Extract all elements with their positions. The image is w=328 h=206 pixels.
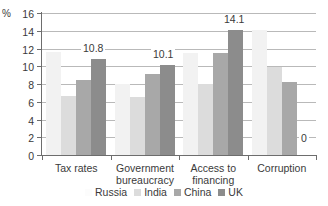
- x-tick-4: [316, 155, 317, 160]
- legend-swatch-india-icon: [134, 189, 141, 196]
- y-axis-labels: 16 14 12 10 8 6 4 2 0: [0, 0, 34, 206]
- y-tick-label-0: 0: [4, 151, 34, 161]
- legend-item-russia[interactable]: Russia: [85, 186, 127, 198]
- category-label-line: bureaucracy: [108, 174, 182, 186]
- category-label-line: Government: [108, 162, 182, 174]
- value-label-uk-tax-rates: 10.8: [81, 43, 105, 54]
- bar-russia-corruption[interactable]: [252, 30, 267, 155]
- legend-swatch-uk-icon: [218, 189, 225, 196]
- bar-india-corruption[interactable]: [267, 67, 282, 155]
- y-tick-label-8: 8: [4, 80, 34, 90]
- legend-label-russia: Russia: [95, 186, 127, 198]
- legend-label-uk: UK: [228, 186, 243, 198]
- value-label-uk-access-to-financing: 14.1: [222, 14, 246, 25]
- bar-uk-access-to-financing[interactable]: [228, 30, 243, 155]
- legend-label-india: India: [144, 186, 167, 198]
- x-tick-3: [248, 155, 249, 160]
- x-tick-0: [42, 155, 43, 160]
- legend-item-uk[interactable]: UK: [218, 186, 243, 198]
- bar-china-access-to-financing[interactable]: [213, 53, 228, 155]
- category-label-government-bureaucracy: Government bureaucracy: [108, 162, 182, 186]
- bar-china-government-bureaucracy[interactable]: [145, 74, 160, 155]
- bar-china-tax-rates[interactable]: [76, 80, 91, 155]
- bar-india-tax-rates[interactable]: [61, 96, 76, 156]
- legend-item-china[interactable]: China: [174, 186, 211, 198]
- bar-russia-tax-rates[interactable]: [46, 52, 61, 155]
- bar-russia-government-bureaucracy[interactable]: [115, 84, 130, 155]
- bar-uk-government-bureaucracy[interactable]: [160, 65, 175, 155]
- legend-item-india[interactable]: India: [134, 186, 167, 198]
- bar-india-access-to-financing[interactable]: [198, 84, 213, 155]
- legend-swatch-russia-icon: [85, 189, 92, 196]
- category-label-access-to-financing: Access to financing: [179, 162, 248, 186]
- bar-chart: % 16 14 12 10 8 6 4 2 0: [0, 0, 328, 206]
- y-tick-label-12: 12: [4, 45, 34, 55]
- y-tick-label-10: 10: [4, 62, 34, 72]
- category-label-corruption: Corruption: [248, 162, 317, 174]
- category-label-line: financing: [179, 174, 248, 186]
- bar-china-corruption[interactable]: [282, 82, 297, 155]
- bar-india-government-bureaucracy[interactable]: [130, 97, 145, 155]
- value-label-uk-corruption: 0: [299, 133, 309, 144]
- bar-group-access-to-financing: [179, 13, 248, 155]
- plot-area: [42, 13, 316, 155]
- bar-group-government-bureaucracy: [111, 13, 180, 155]
- legend: Russia India China UK: [0, 186, 328, 198]
- category-label-line: Corruption: [248, 162, 317, 174]
- y-tick-label-2: 2: [4, 133, 34, 143]
- category-label-tax-rates: Tax rates: [42, 162, 111, 174]
- x-tick-2: [179, 155, 180, 160]
- bar-group-tax-rates: [42, 13, 111, 155]
- value-label-uk-government-bureaucracy: 10.1: [151, 49, 175, 60]
- y-tick-label-4: 4: [4, 116, 34, 126]
- category-label-line: Access to: [179, 162, 248, 174]
- y-axis-line: [41, 12, 42, 156]
- y-tick-label-14: 14: [4, 27, 34, 37]
- legend-label-china: China: [184, 186, 211, 198]
- y-tick-label-6: 6: [4, 98, 34, 108]
- y-tick-label-16: 16: [4, 9, 34, 19]
- x-tick-1: [111, 155, 112, 160]
- bar-uk-tax-rates[interactable]: [91, 59, 106, 155]
- category-label-line: Tax rates: [42, 162, 111, 174]
- legend-swatch-china-icon: [174, 189, 181, 196]
- bar-russia-access-to-financing[interactable]: [183, 53, 198, 155]
